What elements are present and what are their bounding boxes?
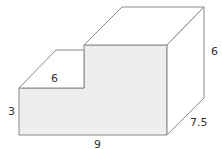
label-bottom-width: 9 bbox=[94, 138, 101, 149]
label-depth: 7.5 bbox=[190, 116, 208, 129]
step-prism-diagram: 6 3 9 6 7.5 bbox=[0, 0, 222, 149]
label-left-height: 3 bbox=[8, 105, 15, 118]
front-face bbox=[19, 45, 167, 135]
label-step-width: 6 bbox=[51, 72, 58, 85]
label-right-height: 6 bbox=[211, 45, 218, 58]
